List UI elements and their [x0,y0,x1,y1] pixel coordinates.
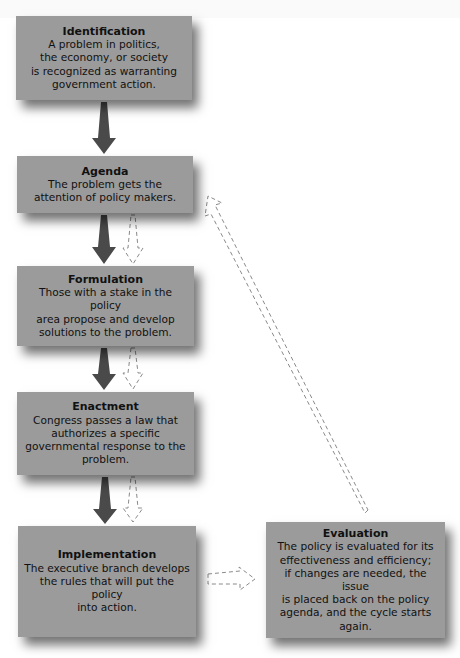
dashed-arrow-evaluation-agenda [205,196,368,513]
stage-description: Congress passes a law that authorizes a … [23,414,188,467]
dashed-arrow-agenda-formulation [123,215,143,264]
solid-arrow-enactment-implementation [93,477,117,524]
stage-title: Formulation [23,273,188,286]
stage-agenda: Agenda The problem gets the attention of… [17,156,193,213]
solid-arrow-agenda-formulation [92,215,116,264]
stage-evaluation: Evaluation The policy is evaluated for i… [266,522,445,638]
stage-description: The problem gets the attention of policy… [23,178,187,204]
stage-identification: Identification A problem in politics, th… [16,16,192,100]
stage-implementation: Implementation The executive branch deve… [18,526,196,637]
stage-title: Agenda [23,165,187,178]
stage-description: The policy is evaluated for its effectiv… [272,540,439,632]
solid-arrow-identification-agenda [92,102,116,154]
stage-enactment: Enactment Congress passes a law that aut… [17,392,194,475]
dashed-arrow-enactment-implementation [123,477,143,522]
dashed-arrow-formulation-enactment [123,348,143,389]
stage-title: Evaluation [272,527,439,540]
stage-description: The executive branch develops the rules … [24,562,190,615]
stage-title: Implementation [24,548,190,561]
stage-description: A problem in politics, the economy, or s… [22,38,186,91]
solid-arrow-formulation-enactment [92,348,116,390]
stage-description: Those with a stake in the policy area pr… [23,286,188,339]
stage-formulation: Formulation Those with a stake in the po… [17,266,194,346]
dashed-arrow-implementation-evaluation [208,567,255,590]
stage-title: Enactment [23,400,188,413]
stage-title: Identification [22,25,186,38]
